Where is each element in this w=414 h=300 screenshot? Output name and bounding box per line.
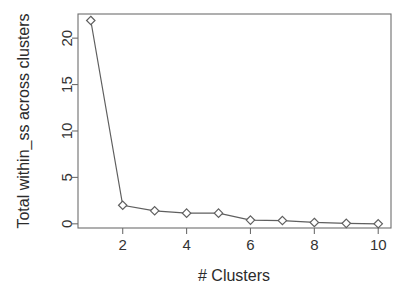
chart-container: 05101520 246810 # Clusters Total within_… [0,0,414,300]
y-axis-title: Total within_ss across clusters [15,13,33,228]
x-axis-title: # Clusters [198,267,270,284]
x-tick-label: 8 [310,236,318,253]
y-tick-label: 20 [59,30,76,47]
y-tick-label: 10 [59,123,76,140]
y-tick-label: 15 [59,76,76,93]
y-tick-label: 0 [59,220,76,228]
y-tick-label: 5 [59,173,76,181]
x-tick-label: 4 [182,236,190,253]
x-tick-label: 10 [370,236,387,253]
x-tick-label: 2 [119,236,127,253]
x-tick-label: 6 [246,236,254,253]
elbow-plot-svg: 05101520 246810 # Clusters Total within_… [0,0,414,300]
